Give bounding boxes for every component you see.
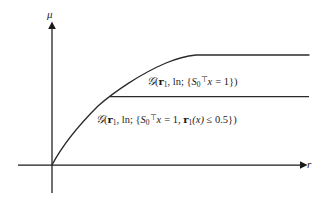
diagram-canvas bbox=[0, 0, 326, 201]
upper-curve-label: 𝒢(r1, ln; {S0⊤x = 1}) bbox=[147, 75, 238, 89]
y-axis-arrowhead-icon bbox=[48, 22, 56, 30]
upper-label-equals: = bbox=[213, 76, 224, 87]
upper-label-set-s-sup: ⊤ bbox=[201, 75, 208, 84]
lower-label-script-g: 𝒢 bbox=[96, 112, 104, 126]
lower-label-set-s-sup: ⊤ bbox=[150, 113, 157, 122]
upper-label-semicolon: ; { bbox=[181, 76, 192, 87]
lower-label-constraint-value: 0.5 bbox=[215, 114, 228, 125]
x-axis-label-r: r bbox=[307, 159, 311, 170]
lower-label-operator: ln bbox=[122, 114, 130, 125]
lower-label-semicolon: ; { bbox=[130, 114, 141, 125]
upper-label-script-g: 𝒢 bbox=[147, 74, 155, 88]
lower-label-equals: = bbox=[162, 114, 173, 125]
upper-label-operator: ln bbox=[173, 76, 181, 87]
growth-function-diagram: μ r 𝒢(r1, ln; {S0⊤x = 1}) 𝒢(r1, ln; {S0⊤… bbox=[0, 0, 326, 201]
lower-label-constraint-arg: (x) bbox=[192, 114, 204, 125]
lower-curve-label: 𝒢(r1, ln; {S0⊤x = 1, r1(x) ≤ 0.5}) bbox=[96, 113, 237, 127]
y-axis-label-mu: μ bbox=[47, 9, 53, 20]
lower-label-close: }) bbox=[228, 114, 237, 125]
upper-label-close: }) bbox=[229, 76, 238, 87]
upper-curve-growth-function bbox=[52, 55, 309, 165]
lower-label-constraint-op: ≤ bbox=[204, 114, 215, 125]
